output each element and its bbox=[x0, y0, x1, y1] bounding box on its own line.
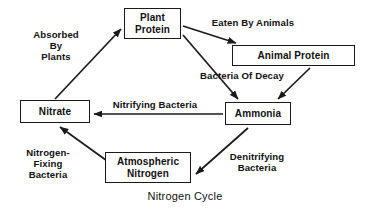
edge-label-eaten-by-animals: Eaten By Animals bbox=[203, 17, 303, 28]
edge-plant-protein-to-animal-protein bbox=[183, 26, 236, 43]
node-animal-protein[interactable]: Animal Protein bbox=[232, 45, 355, 66]
edge-plant-protein-to-ammonia bbox=[183, 35, 238, 99]
diagram-caption: Nitrogen Cycle bbox=[115, 190, 255, 202]
edge-label-nitrifying-bacteria: Nitrifying Bacteria bbox=[103, 99, 207, 110]
nitrogen-cycle-diagram: Plant Protein Animal Protein Nitrate Amm… bbox=[0, 0, 370, 210]
edge-label-bacteria-of-decay: Bacteria Of Decay bbox=[193, 70, 291, 81]
node-atmospheric-nitrogen[interactable]: Atmospheric Nitrogen bbox=[105, 152, 191, 183]
node-nitrate[interactable]: Nitrate bbox=[20, 100, 90, 123]
node-plant-protein[interactable]: Plant Protein bbox=[124, 8, 181, 39]
edge-label-nitrogen-fixing-bacteria: Nitrogen- Fixing Bacteria bbox=[14, 147, 82, 180]
edge-label-denitrifying-bacteria: Denitrifying Bacteria bbox=[220, 151, 294, 173]
edge-label-absorbed-by-plants: Absorbed By Plants bbox=[22, 29, 90, 62]
node-ammonia[interactable]: Ammonia bbox=[225, 102, 291, 125]
